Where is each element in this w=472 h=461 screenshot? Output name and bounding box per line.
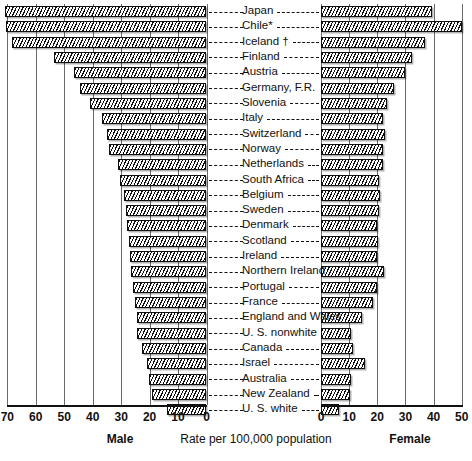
category-label-18: Portugal (242, 280, 285, 292)
leader-dash-right-10 (308, 165, 319, 166)
leader-dash-right-4 (282, 73, 319, 74)
leader-dash-right-1 (277, 27, 319, 28)
tick-label-female-50: 50 (447, 410, 472, 424)
tick-label-male-0: 0 (192, 410, 222, 424)
bar-male-24 (149, 374, 206, 385)
gridline-male-50 (64, 4, 65, 405)
bar-female-25 (321, 389, 350, 400)
bar-male-19 (135, 297, 207, 308)
category-label-5: Germany, F.R. (242, 81, 315, 93)
bar-female-4 (321, 67, 405, 78)
gridline-female-50 (462, 4, 463, 405)
leader-dash-right-0 (277, 12, 319, 13)
leader-dash-left-25 (209, 395, 243, 396)
bar-male-17 (131, 266, 207, 277)
bar-male-2 (12, 37, 206, 48)
category-label-4: Austria (242, 65, 278, 77)
category-label-16: Ireland (242, 249, 277, 261)
bar-female-1 (321, 21, 462, 32)
category-label-19: France (242, 295, 278, 307)
bar-male-3 (54, 52, 207, 63)
category-label-15: Scotland (242, 234, 287, 246)
leader-dash-left-18 (209, 287, 243, 288)
leader-dash-right-11 (308, 180, 319, 181)
leader-dash-right-19 (282, 303, 319, 304)
category-label-6: Slovenia (242, 96, 286, 108)
category-label-17: Northern Ireland (242, 264, 325, 276)
category-label-12: Belgium (242, 188, 284, 200)
bar-female-11 (321, 175, 379, 186)
category-label-24: Australia (242, 372, 287, 384)
leader-dash-left-9 (209, 149, 243, 150)
leader-dash-left-7 (209, 119, 243, 120)
leader-dash-right-3 (284, 57, 319, 58)
bar-female-18 (321, 282, 377, 293)
bar-female-24 (321, 374, 351, 385)
bar-female-21 (321, 328, 351, 339)
stomach-cancer-rate-chart: JapanChile*Iceland †FinlandAustriaGerman… (0, 0, 472, 461)
bar-female-12 (321, 190, 380, 201)
bar-female-16 (321, 251, 377, 262)
bar-male-1 (6, 21, 207, 32)
tick-label-male-70: 70 (0, 410, 22, 424)
bar-male-11 (120, 175, 206, 186)
gridline-male-70 (7, 4, 8, 405)
female-axis-baseline (321, 405, 463, 407)
category-label-10: Netherlands (242, 157, 304, 169)
leader-dash-left-11 (209, 180, 243, 181)
leader-dash-left-5 (209, 88, 243, 89)
leader-dash-left-17 (209, 272, 243, 273)
leader-dash-right-24 (291, 379, 319, 380)
category-label-0: Japan (242, 4, 273, 16)
female-axis-title: Female (350, 432, 470, 446)
category-label-2: Iceland † (242, 35, 289, 47)
tick-label-male-60: 60 (21, 410, 51, 424)
bar-male-9 (109, 144, 207, 155)
bar-male-6 (90, 98, 207, 109)
bar-female-14 (321, 220, 377, 231)
bar-male-18 (133, 282, 206, 293)
bar-female-10 (321, 159, 383, 170)
category-label-25: New Zealand (242, 387, 310, 399)
leader-dash-left-12 (209, 195, 243, 196)
leader-dash-right-16 (281, 257, 319, 258)
category-label-21: U. S. nonwhite (242, 326, 317, 338)
bar-male-0 (5, 6, 207, 17)
leader-dash-right-22 (286, 349, 319, 350)
bar-female-13 (321, 205, 379, 216)
bar-female-19 (321, 297, 373, 308)
bar-male-13 (126, 205, 206, 216)
bar-male-8 (107, 129, 207, 140)
gridline-female-40 (434, 4, 435, 405)
bar-female-22 (321, 343, 353, 354)
tick-label-male-40: 40 (78, 410, 108, 424)
leader-dash-right-23 (274, 364, 319, 365)
plot-area: JapanChile*Iceland †FinlandAustriaGerman… (0, 0, 472, 461)
bar-male-21 (137, 328, 206, 339)
bar-male-16 (130, 251, 207, 262)
gridline-male-60 (36, 4, 37, 405)
leader-dash-left-8 (209, 134, 243, 135)
leader-dash-left-16 (209, 257, 243, 258)
leader-dash-left-1 (209, 27, 243, 28)
bar-female-8 (321, 129, 385, 140)
leader-dash-left-2 (209, 42, 243, 43)
tick-label-male-20: 20 (135, 410, 165, 424)
leader-dash-left-19 (209, 303, 243, 304)
tick-label-male-50: 50 (49, 410, 79, 424)
leader-dash-right-2 (293, 42, 319, 43)
male-axis-baseline (7, 405, 207, 407)
category-label-8: Switzerland (242, 127, 301, 139)
category-label-1: Chile* (242, 19, 273, 31)
leader-dash-right-7 (267, 119, 319, 120)
category-label-26: U. S. white (242, 402, 298, 414)
category-label-3: Finland (242, 50, 280, 62)
bar-female-15 (321, 236, 378, 247)
bar-female-23 (321, 358, 365, 369)
leader-dash-left-10 (209, 165, 243, 166)
tick-label-male-30: 30 (106, 410, 136, 424)
category-label-13: Sweden (242, 203, 284, 215)
leader-dash-right-8 (305, 134, 319, 135)
center-axis-caption: Rate per 100,000 population (176, 432, 336, 446)
leader-dash-left-15 (209, 241, 243, 242)
